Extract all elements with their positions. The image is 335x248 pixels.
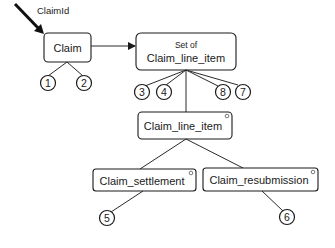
- node-claim-settlement[interactable]: Claim_settlement: [93, 169, 196, 191]
- edge-claim-1: [48, 62, 67, 76]
- node-claim-settlement-label: Claim_settlement: [100, 175, 185, 187]
- node-claim-resubmission[interactable]: Claim_resubmission: [203, 168, 318, 191]
- edge-claim-2: [67, 62, 83, 76]
- claim-structure-diagram: ClaimId Claim Set of Claim_line_item Cla…: [0, 0, 335, 248]
- marker-1: 1: [41, 76, 56, 91]
- edge-line-item-to-settlement: [140, 139, 186, 169]
- edge-set-4: [166, 70, 186, 85]
- marker-6: 6: [280, 210, 295, 225]
- node-indicator-icon: [311, 170, 315, 174]
- marker-8: 8: [216, 85, 231, 100]
- marker-5: 5: [100, 211, 115, 226]
- edge-set-3: [145, 70, 186, 86]
- entry-label: ClaimId: [37, 5, 69, 16]
- node-set-of-claim-line-item[interactable]: Set of Claim_line_item: [136, 33, 236, 70]
- node-claim-label: Claim: [53, 42, 81, 54]
- node-set-prefix: Set of: [175, 40, 198, 50]
- node-claim-line-item[interactable]: Claim_line_item: [138, 112, 232, 139]
- svg-text:8: 8: [220, 86, 226, 98]
- marker-4: 4: [157, 85, 172, 100]
- svg-text:3: 3: [139, 86, 145, 98]
- node-indicator-icon: [225, 114, 229, 118]
- node-indicator-icon: [189, 171, 193, 175]
- node-claim-line-item-label: Claim_line_item: [144, 120, 222, 132]
- svg-text:6: 6: [284, 211, 290, 223]
- svg-text:2: 2: [81, 77, 87, 89]
- node-claim[interactable]: Claim: [44, 33, 91, 62]
- node-set-label: Claim_line_item: [147, 52, 225, 64]
- edge-resubmission-6: [262, 191, 283, 211]
- svg-text:7: 7: [240, 86, 246, 98]
- marker-7: 7: [236, 85, 251, 100]
- node-claim-resubmission-label: Claim_resubmission: [209, 174, 308, 186]
- svg-text:4: 4: [161, 86, 167, 98]
- marker-3: 3: [135, 85, 150, 100]
- svg-text:5: 5: [104, 212, 110, 224]
- edge-line-item-to-resubmission: [186, 139, 243, 168]
- marker-2: 2: [77, 76, 92, 91]
- svg-text:1: 1: [45, 77, 51, 89]
- edge-settlement-5: [111, 191, 143, 212]
